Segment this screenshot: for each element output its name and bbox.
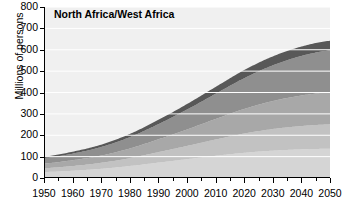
y-tick-label: 0: [32, 172, 38, 182]
x-tick-mark: [130, 178, 131, 183]
x-tick-mark: [330, 178, 331, 183]
y-tick-label: 500: [20, 65, 38, 75]
x-tick-minor-mark: [201, 178, 202, 181]
x-tick-mark: [44, 178, 45, 183]
x-tick-minor-mark: [116, 178, 117, 181]
x-tick-mark: [187, 178, 188, 183]
x-tick-mark: [73, 178, 74, 183]
y-tick-label: 200: [20, 129, 38, 139]
x-tick-minor-mark: [173, 178, 174, 181]
x-tick-minor-mark: [144, 178, 145, 181]
y-tick-mark: [40, 28, 44, 29]
x-tick-minor-mark: [287, 178, 288, 181]
plot-area: [44, 7, 330, 178]
y-tick-label: 800: [20, 1, 38, 11]
x-tick-mark: [301, 178, 302, 183]
x-tick-minor-mark: [316, 178, 317, 181]
x-tick-minor-mark: [259, 178, 260, 181]
y-tick-mark: [40, 50, 44, 51]
x-tick-minor-mark: [230, 178, 231, 181]
y-tick-label: 700: [20, 22, 38, 32]
x-tick-mark: [244, 178, 245, 183]
chart-title: North Africa/West Africa: [54, 8, 174, 20]
y-tick-mark: [40, 135, 44, 136]
y-tick-label: 600: [20, 44, 38, 54]
y-tick-label: 400: [20, 87, 38, 97]
y-tick-mark: [40, 93, 44, 94]
x-tick-mark: [101, 178, 102, 183]
y-tick-label: 100: [20, 151, 38, 161]
x-tick-minor-mark: [87, 178, 88, 181]
y-tick-mark: [40, 157, 44, 158]
gridlines: [44, 7, 330, 178]
y-tick-mark: [40, 71, 44, 72]
y-tick-mark: [40, 114, 44, 115]
x-tick-mark: [158, 178, 159, 183]
x-tick-label: 2050: [312, 188, 346, 199]
y-tick-mark: [40, 7, 44, 8]
y-tick-label: 300: [20, 108, 38, 118]
x-tick-minor-mark: [58, 178, 59, 181]
x-tick-mark: [273, 178, 274, 183]
x-tick-mark: [216, 178, 217, 183]
